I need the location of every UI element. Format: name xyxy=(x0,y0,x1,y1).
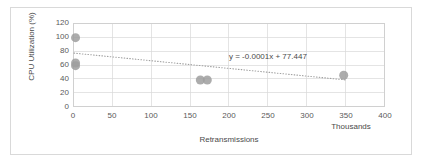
y-tick-label: 20 xyxy=(39,89,69,97)
data-point xyxy=(71,61,80,70)
data-point xyxy=(339,71,348,80)
x-tick-label: 200 xyxy=(209,111,249,120)
x-tick-label: 350 xyxy=(326,111,366,120)
y-tick-label: 60 xyxy=(39,61,69,69)
y-tick-label: 40 xyxy=(39,75,69,83)
x-tick-label: 150 xyxy=(170,111,210,120)
plot-area xyxy=(73,23,385,107)
x-tick-label: 250 xyxy=(248,111,288,120)
data-point xyxy=(203,76,212,85)
y-tick-label: 100 xyxy=(39,33,69,41)
x-tick-label: 100 xyxy=(131,111,171,120)
x-tick-label: 300 xyxy=(287,111,327,120)
y-tick-label: 0 xyxy=(39,103,69,111)
x-axis-units-label: Thousands xyxy=(311,122,391,131)
y-tick-label: 80 xyxy=(39,47,69,55)
y-axis-tick-labels: 120 100 80 60 40 20 0 xyxy=(35,23,69,107)
plot-svg xyxy=(74,24,384,106)
y-tick-label: 120 xyxy=(39,19,69,27)
chart-container: CPU Utilization (%) 120 100 80 60 40 20 … xyxy=(10,7,412,155)
data-point xyxy=(71,33,80,42)
x-tick-label: 0 xyxy=(53,111,93,120)
x-axis-title: Retransmissions xyxy=(73,135,385,144)
x-tick-label: 400 xyxy=(365,111,405,120)
x-tick-label: 50 xyxy=(92,111,132,120)
trendline-equation-label: y = -0.0001x + 77.447 xyxy=(229,52,307,61)
